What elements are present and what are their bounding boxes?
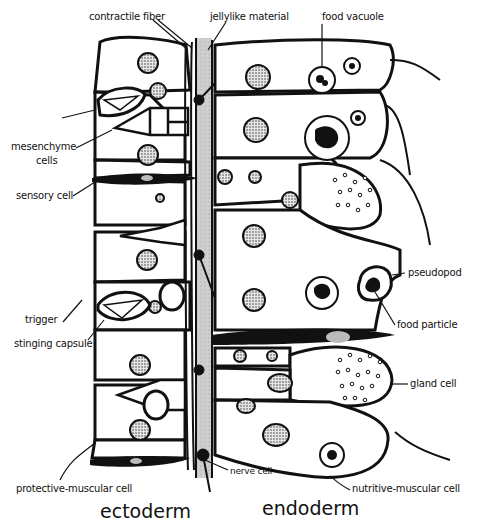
label-trigger: trigger bbox=[25, 315, 57, 325]
label-nerve-cell: nerve cell bbox=[230, 467, 272, 476]
label-food-vacuole: food vacuole bbox=[322, 12, 384, 22]
label-mesenchyme-line1: mesenchyme bbox=[11, 142, 76, 152]
label-protective-muscular-cell: protective-muscular cell bbox=[16, 484, 132, 494]
label-pseudopod: pseudopod bbox=[408, 268, 462, 278]
pseudopod bbox=[358, 267, 391, 300]
sensory-cell-nucleus bbox=[141, 175, 153, 181]
label-ectoderm: ectoderm bbox=[100, 502, 191, 521]
contractile-fibers bbox=[185, 42, 194, 470]
label-endoderm: endoderm bbox=[262, 499, 359, 518]
label-gland-cell: gland cell bbox=[410, 379, 456, 389]
label-contractile-fiber: contractile fiber bbox=[89, 12, 165, 22]
label-stinging-capsule: stinging capsule bbox=[14, 339, 93, 349]
hydra-body-wall-diagram bbox=[0, 0, 478, 527]
label-mesenchyme-line2: cells bbox=[36, 156, 57, 166]
label-food-particle: food particle bbox=[397, 320, 457, 330]
label-nutritive-muscular-cell: nutritive-muscular cell bbox=[352, 484, 460, 494]
label-jellylike-material: jellylike material bbox=[210, 12, 289, 22]
label-sensory-cell: sensory cell bbox=[16, 191, 73, 201]
